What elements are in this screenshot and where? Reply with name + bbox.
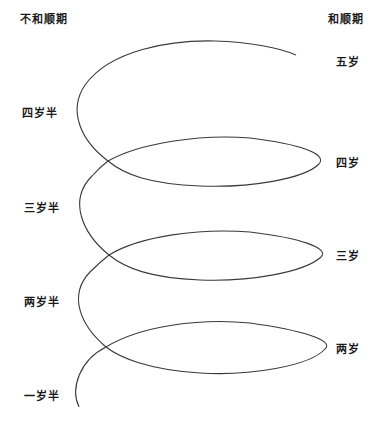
right-label-5: 五岁: [336, 53, 360, 69]
development-spiral-curve: [0, 0, 381, 446]
spiral-path: [76, 41, 327, 407]
right-label-3: 三岁: [336, 247, 360, 263]
left-label-3-5: 三岁半: [24, 199, 60, 215]
right-label-4: 四岁: [336, 154, 360, 170]
left-label-4-5: 四岁半: [22, 104, 58, 120]
left-label-2-5: 两岁半: [24, 293, 60, 309]
left-label-1-5: 一岁半: [24, 387, 60, 403]
right-label-2: 两岁: [336, 340, 360, 356]
